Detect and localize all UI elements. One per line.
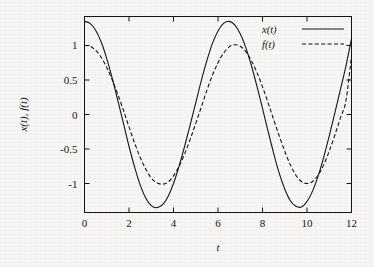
- plot-figure: 02468101210.50-0.5-1tx(t), f(t)x(t)f(t): [0, 0, 374, 267]
- x-tick-label: 4: [171, 217, 177, 229]
- chart-canvas: 02468101210.50-0.5-1tx(t), f(t)x(t)f(t): [0, 0, 374, 267]
- y-tick-label: 0: [72, 109, 78, 121]
- y-tick-label: -1: [68, 178, 77, 190]
- x-tick-label: 2: [126, 217, 132, 229]
- y-tick-label: 1: [72, 39, 78, 51]
- legend-label-1: x(t): [261, 24, 277, 36]
- x-tick-label: 12: [346, 217, 357, 229]
- x-tick-label: 8: [260, 217, 266, 229]
- x-axis-label: t: [216, 241, 220, 253]
- y-tick-label: 0.5: [64, 74, 78, 86]
- x-tick-label: 6: [215, 217, 221, 229]
- x-tick-label: 0: [82, 217, 88, 229]
- series-curve-2: [85, 45, 352, 184]
- y-axis-label: x(t), f(t): [17, 97, 30, 133]
- legend-label-2: f(t): [262, 39, 275, 51]
- y-tick-label: -0.5: [60, 143, 78, 155]
- x-tick-label: 10: [302, 217, 314, 229]
